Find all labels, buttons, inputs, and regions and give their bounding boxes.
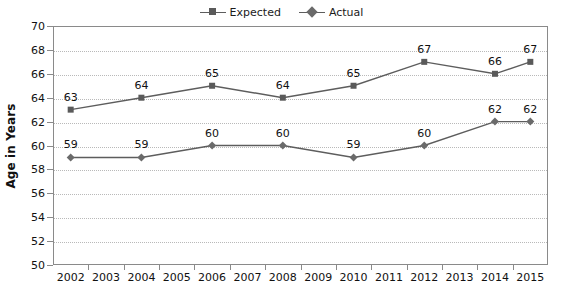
x-tick-mark (301, 265, 302, 270)
x-tick-mark (442, 265, 443, 270)
y-tick-label: 58 (5, 163, 45, 176)
x-tick-mark (88, 265, 89, 270)
y-tick-mark (47, 74, 53, 75)
gridline (54, 99, 547, 100)
y-tick-mark (47, 169, 53, 170)
gridline (54, 170, 547, 171)
y-tick-mark (47, 241, 53, 242)
x-tick-mark (230, 265, 231, 270)
x-tick-mark (407, 265, 408, 270)
data-point-label: 65 (339, 67, 369, 80)
data-point-label: 60 (197, 127, 227, 140)
gridline (54, 218, 547, 219)
x-tick-mark (194, 265, 195, 270)
y-tick-label: 62 (5, 115, 45, 128)
y-tick-label: 70 (5, 20, 45, 33)
data-point-label: 65 (197, 67, 227, 80)
y-tick-label: 60 (5, 139, 45, 152)
data-point-label: 62 (515, 103, 545, 116)
data-point-label: 59 (56, 138, 86, 151)
y-tick-mark (47, 217, 53, 218)
y-tick-mark (47, 146, 53, 147)
data-point-label: 67 (515, 43, 545, 56)
data-point-label: 67 (409, 43, 439, 56)
x-tick-mark (477, 265, 478, 270)
y-tick-label: 66 (5, 67, 45, 80)
x-tick-label: 2015 (508, 271, 552, 284)
y-tick-label: 50 (5, 259, 45, 272)
gridline (54, 194, 547, 195)
y-tick-label: 56 (5, 187, 45, 200)
y-tick-label: 54 (5, 211, 45, 224)
legend-label-expected: Expected (230, 7, 281, 18)
legend-item-expected[interactable]: Expected (200, 7, 281, 18)
data-point-label: 59 (126, 138, 156, 151)
legend-label-actual: Actual (329, 7, 363, 18)
y-tick-mark (47, 265, 53, 266)
y-tick-mark (47, 26, 53, 27)
data-point-label: 63 (56, 91, 86, 104)
y-tick-label: 68 (5, 43, 45, 56)
line-chart: Expected Actual Age in Years 63646564656… (0, 0, 563, 292)
data-point-label: 66 (480, 55, 510, 68)
gridline (54, 242, 547, 243)
x-tick-mark (513, 265, 514, 270)
y-tick-label: 52 (5, 235, 45, 248)
data-point-label: 64 (126, 79, 156, 92)
diamond-marker-icon (299, 7, 325, 18)
data-point-label: 64 (268, 79, 298, 92)
x-tick-mark (124, 265, 125, 270)
gridline (54, 51, 547, 52)
y-tick-mark (47, 98, 53, 99)
y-tick-mark (47, 193, 53, 194)
x-tick-mark (336, 265, 337, 270)
x-tick-mark (371, 265, 372, 270)
data-point-label: 60 (268, 127, 298, 140)
legend-item-actual[interactable]: Actual (299, 7, 363, 18)
x-tick-mark (265, 265, 266, 270)
data-point-label: 59 (339, 138, 369, 151)
square-marker-icon (200, 7, 226, 18)
y-tick-mark (47, 50, 53, 51)
data-point-label: 62 (480, 103, 510, 116)
gridline (54, 123, 547, 124)
chart-legend: Expected Actual (0, 3, 563, 21)
x-tick-mark (159, 265, 160, 270)
gridline (54, 75, 547, 76)
y-tick-mark (47, 122, 53, 123)
data-point-label: 60 (409, 127, 439, 140)
y-tick-label: 64 (5, 91, 45, 104)
